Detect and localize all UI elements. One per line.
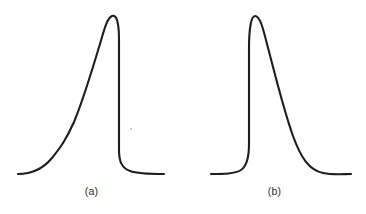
- curve-b-line: [211, 16, 351, 174]
- curve-b-plot: [183, 0, 366, 185]
- panel-b-label: (b): [183, 184, 366, 198]
- figure-root: (a) (b): [0, 0, 366, 214]
- panel-b: (b): [183, 0, 366, 214]
- curve-a-plot: [0, 0, 183, 185]
- panel-a-label: (a): [0, 184, 183, 198]
- panel-a: (a): [0, 0, 183, 214]
- curve-a-line: [18, 16, 164, 174]
- scan-speck-artifact: [130, 128, 132, 130]
